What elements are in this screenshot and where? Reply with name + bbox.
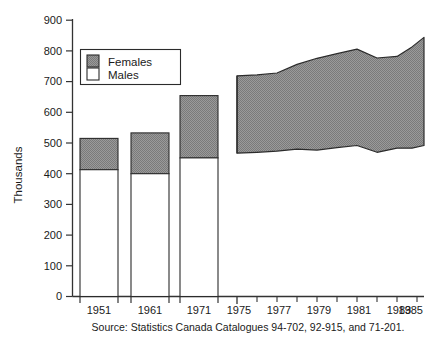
legend-label-females: Females xyxy=(108,56,152,68)
legend-swatch-females xyxy=(87,55,99,67)
figure-root: 0 100 200 300 400 500 600 700 800 900 Th… xyxy=(0,0,433,345)
y-tick-label: 300 xyxy=(44,198,62,210)
bar-group-1951 xyxy=(80,138,118,296)
x-tick-label: 1961 xyxy=(138,304,162,316)
bar-segment-males-1971 xyxy=(180,158,218,297)
y-tick-label: 700 xyxy=(44,75,62,87)
x-tick-label: 1971 xyxy=(187,304,211,316)
legend-label-males: Males xyxy=(108,69,139,81)
legend[interactable]: Females Males xyxy=(81,50,181,85)
y-tick-label: 900 xyxy=(44,14,62,26)
y-tick-label: 200 xyxy=(44,229,62,241)
x-tick-label: 1977 xyxy=(267,304,291,316)
bar-group-1971 xyxy=(180,96,218,297)
source-note: Source: Statistics Canada Catalogues 94-… xyxy=(92,321,405,333)
bar-segment-females-1951 xyxy=(80,138,118,169)
x-tick-label: 1951 xyxy=(87,304,111,316)
chart-svg: 0 100 200 300 400 500 600 700 800 900 Th… xyxy=(0,0,433,345)
chart-canvas: 0 100 200 300 400 500 600 700 800 900 Th… xyxy=(0,0,433,345)
y-tick-label: 0 xyxy=(56,290,62,302)
y-tick-label: 600 xyxy=(44,106,62,118)
y-tick-label: 800 xyxy=(44,45,62,57)
bar-segment-females-1961 xyxy=(131,133,169,174)
bar-group-1961 xyxy=(131,133,169,297)
bar-segment-males-1951 xyxy=(80,170,118,297)
y-tick-label: 100 xyxy=(44,260,62,272)
y-axis-title: Thousands xyxy=(12,146,24,203)
y-tick-label: 500 xyxy=(44,137,62,149)
x-tick-label: 1981 xyxy=(347,304,371,316)
bar-segment-females-1971 xyxy=(180,96,218,158)
y-tick-label: 400 xyxy=(44,168,62,180)
legend-swatch-males xyxy=(87,68,99,80)
x-tick-label: 1975 xyxy=(227,304,251,316)
bar-segment-males-1961 xyxy=(131,174,169,297)
x-tick-label: 1979 xyxy=(307,304,331,316)
x-tick-label: 1985 xyxy=(399,304,423,316)
